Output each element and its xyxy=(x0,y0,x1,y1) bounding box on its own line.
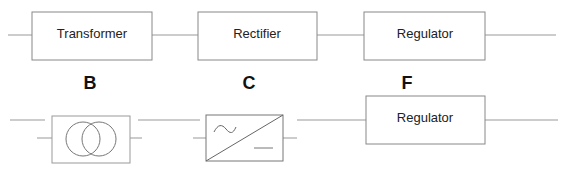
block-regulator-top-label: Regulator xyxy=(397,26,454,41)
block-regulator-bottom: Regulator xyxy=(366,96,485,144)
transformer-symbol xyxy=(52,116,130,163)
section-letter-b: B xyxy=(84,73,97,93)
section-letter-f: F xyxy=(402,73,413,93)
block-transformer-label: Transformer xyxy=(57,26,128,41)
section-letter-c: C xyxy=(243,73,256,93)
block-transformer: Transformer xyxy=(32,12,152,60)
block-rectifier: Rectifier xyxy=(198,12,317,60)
block-rectifier-label: Rectifier xyxy=(233,26,281,41)
rectifier-symbol xyxy=(206,115,283,161)
power-supply-block-diagram: Transformer Rectifier Regulator B C F xyxy=(0,0,569,171)
block-regulator-bottom-label: Regulator xyxy=(397,110,454,125)
block-regulator-top: Regulator xyxy=(364,12,485,60)
